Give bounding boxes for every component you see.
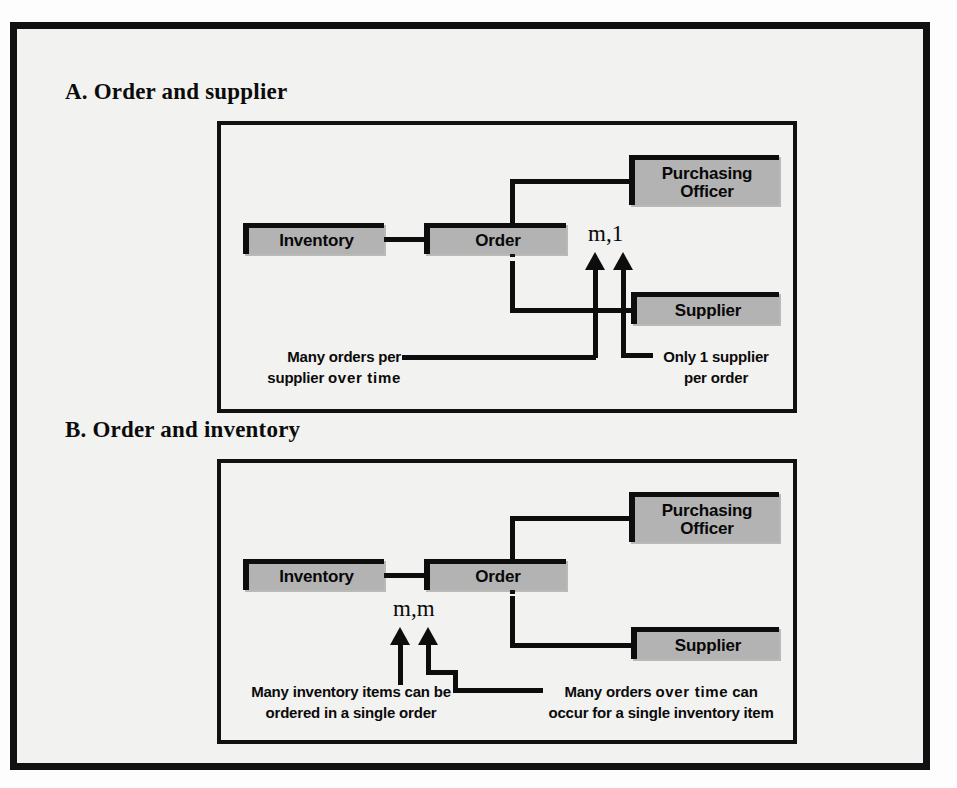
figure-outer-frame: A. Order and supplier Inventory Order Pu… [10,22,930,770]
panel-b-caption: B. Order and inventory [65,417,300,443]
panel-a-order-to-supplier-vertical [510,261,515,313]
panel-a-right-annotation-leader-horizontal [621,353,653,358]
panel-b-entity-purchasing-officer: Purchasing Officer [629,492,779,542]
panel-b-entity-inventory: Inventory [243,559,384,590]
panel-a-left-annotation-line2-emphasis: over time [328,369,401,386]
panel-a-order-to-supplier-horizontal [510,308,638,313]
panel-b-right-annotation-line1-emphasis: over time [655,683,728,700]
panel-a-caption: A. Order and supplier [65,79,287,105]
panel-b-entity-supplier-label: Supplier [675,637,741,655]
panel-a-entity-inventory-label: Inventory [279,232,354,250]
panel-b-order-to-supplier-horizontal [510,643,638,648]
panel-b-entity-purchasing-officer-label-line1: Purchasing [662,502,753,520]
panel-b-diagram: Inventory Order Purchasing Officer Suppl… [217,459,797,744]
panel-b-entity-order-label: Order [475,568,520,586]
panel-b-right-annotation-line1-pre: Many orders [564,683,655,700]
panel-a-left-annotation-line2-plain: supplier [267,369,328,386]
panel-b-right-annotation: Many orders over time can occur for a si… [541,681,781,724]
panel-a-right-annotation-line1: Only 1 supplier [651,346,781,367]
panel-b-left-annotation-line2: ordered in a single order [241,702,461,723]
panel-b-entity-purchasing-officer-label-line2: Officer [680,520,733,538]
panel-b-entity-order: Order [424,559,566,590]
panel-a-cardinality-label: m,1 [588,221,623,247]
panel-b-entity-supplier: Supplier [631,627,779,659]
panel-a-entity-order-label: Order [475,232,520,250]
panel-b-arrow-many-inventory-items [398,643,403,685]
panel-a-entity-purchasing-officer: Purchasing Officer [629,155,779,205]
panel-b-right-annotation-line1: Many orders over time can [541,681,781,702]
panel-b-inventory-order-link [384,573,424,578]
panel-a-diagram: Inventory Order Purchasing Officer Suppl… [217,121,797,413]
panel-b-cardinality-label: m,m [393,596,435,622]
panel-b-left-annotation-line1: Many inventory items can be [241,681,461,702]
panel-a-entity-supplier: Supplier [631,292,779,324]
panel-a-left-annotation-line2: supplier over time [243,367,401,388]
panel-a-arrow-many-orders [593,268,598,358]
panel-a-order-to-officer-horizontal [510,179,635,184]
panel-a-entity-purchasing-officer-label-line2: Officer [680,183,733,201]
panel-a-left-annotation: Many orders per supplier over time [243,346,401,389]
panel-b-left-annotation: Many inventory items can be ordered in a… [241,681,461,724]
panel-b-entity-inventory-label: Inventory [279,568,354,586]
panel-a-right-annotation: Only 1 supplier per order [651,346,781,389]
figure-page: A. Order and supplier Inventory Order Pu… [0,0,957,788]
panel-b-order-to-supplier-vertical [510,596,515,648]
panel-a-entity-inventory: Inventory [243,223,384,254]
panel-a-entity-supplier-label: Supplier [675,302,741,320]
panel-a-left-annotation-leader [402,355,596,360]
panel-a-arrow-one-supplier [621,268,626,328]
panel-a-left-annotation-line1: Many orders per [243,346,401,367]
panel-b-right-annotation-leader-h2 [453,688,543,693]
panel-a-entity-order: Order [424,223,566,254]
panel-b-right-annotation-line1-post: can [728,683,757,700]
panel-b-order-to-officer-horizontal [510,516,635,521]
panel-a-right-annotation-line2: per order [651,367,781,388]
panel-b-right-annotation-line2: occur for a single inventory item [541,702,781,723]
panel-a-inventory-order-link [384,237,424,242]
panel-a-entity-purchasing-officer-label-line1: Purchasing [662,165,753,183]
